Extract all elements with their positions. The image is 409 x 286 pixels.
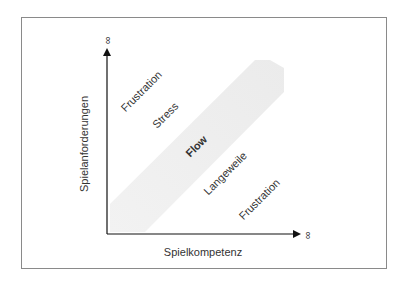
x-axis-label: Spielkompetenz (164, 246, 242, 258)
x-axis-arrow-icon (293, 230, 301, 238)
y-axis-infinity: ∞ (101, 36, 113, 44)
x-axis-infinity: ∞ (301, 231, 313, 239)
region-label-frustration-lower: Frustration (236, 176, 282, 222)
y-axis-label: Spielanforderungen (78, 96, 90, 192)
flow-diagram: ∞ ∞ Spielkompetenz Spielanforderungen Fr… (0, 0, 409, 286)
region-label-stress: Stress (150, 100, 181, 131)
y-axis-arrow-icon (103, 48, 111, 56)
region-label-frustration-upper: Frustration (118, 68, 164, 114)
